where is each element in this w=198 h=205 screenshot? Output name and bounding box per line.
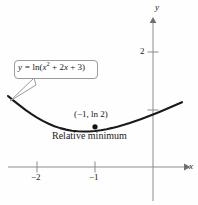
y-axis-label: y xyxy=(155,3,159,12)
equation-callout-label: y = ln(x2 + 2x + 3) xyxy=(18,63,85,72)
equation-middle-term: + 2 xyxy=(50,62,64,72)
equation-tail: + 3) xyxy=(68,62,85,72)
callout-pointer-tail xyxy=(10,78,36,101)
minimum-point-label: (−1, ln 2) xyxy=(74,110,108,119)
x-tick-label-minus2: −2 xyxy=(31,173,41,182)
equation-ln: ln( xyxy=(33,62,43,72)
y-axis-arrowhead xyxy=(150,17,157,23)
plot-canvas xyxy=(0,0,198,205)
relative-minimum-caption: Relative minimum xyxy=(52,131,127,141)
graph-figure: y = ln(x2 + 2x + 3) y x 2 −2 −1 (−1, ln … xyxy=(0,0,198,205)
relative-minimum-point xyxy=(92,124,97,129)
x-tick-label-minus1: −1 xyxy=(89,173,99,182)
equation-lead: y = xyxy=(18,62,33,72)
x-axis-label: x xyxy=(189,162,193,171)
y-tick-label-2: 2 xyxy=(140,47,145,56)
